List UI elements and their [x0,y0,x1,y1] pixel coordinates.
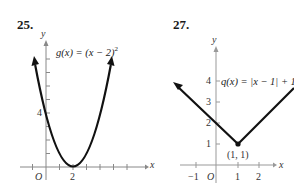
problem-27-panel: 27. x y q(x) = |x − 1| + 1 4 3 2 1 (1, 1… [147,0,294,189]
parabola-graph [0,0,147,189]
origin-label: O [35,172,42,182]
y-tick-1: 1 [206,139,211,149]
problem-25-panel: 25. y [0,0,147,189]
arrow-left-icon [32,56,40,66]
stray-x-label: x [150,160,154,170]
function-label: g(x) = (x − 2)2 [56,46,118,58]
x-axis-label: x [279,160,283,170]
x-tick-neg1: −1 [188,172,199,182]
y-tick-2: 2 [206,118,211,128]
function-label: q(x) = |x − 1| + 1 [221,77,294,88]
y-axis-label: y [212,35,216,45]
x-tick-2: 2 [70,172,75,182]
y-tick-4: 4 [206,76,211,86]
x-tick-1: 1 [235,172,240,182]
y-tick-3: 3 [206,97,211,107]
origin-label: O [207,172,214,182]
absolute-value-graph [147,0,294,189]
y-tick-4: 4 [37,108,42,118]
x-tick-2: 2 [256,172,261,182]
y-axis-label: y [41,29,45,39]
vertex-point [235,141,240,146]
vertex-label: (1, 1) [227,150,249,160]
